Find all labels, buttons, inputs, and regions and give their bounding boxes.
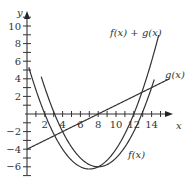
y-tick-label: 10	[8, 21, 21, 32]
y-tick-label: 6	[15, 56, 21, 67]
plot-area: 2468101214−6−4−2246810xyf(x) + g(x)g(x)f…	[0, 0, 188, 187]
y-tick-label: −2	[6, 126, 21, 137]
label-f-plus-g: f(x) + g(x)	[109, 27, 162, 38]
x-tick-label: 14	[145, 119, 158, 130]
y-tick-label: −4	[6, 144, 21, 155]
y-tick-label: 8	[15, 38, 21, 49]
x-arrow-icon	[165, 111, 173, 117]
x-axis-label: x	[176, 120, 182, 131]
y-tick-label: −6	[6, 161, 21, 172]
label-g: g(x)	[165, 69, 185, 80]
chart: 2468101214−6−4−2246810xyf(x) + g(x)g(x)f…	[0, 0, 188, 187]
y-arrow-icon	[24, 11, 30, 19]
label-f: f(x)	[127, 149, 145, 160]
x-tick-label: 10	[110, 119, 123, 130]
y-tick-label: 2	[15, 91, 21, 102]
x-tick-label: 8	[95, 119, 101, 130]
y-axis-label: y	[16, 7, 23, 18]
y-tick-label: 4	[15, 73, 21, 84]
